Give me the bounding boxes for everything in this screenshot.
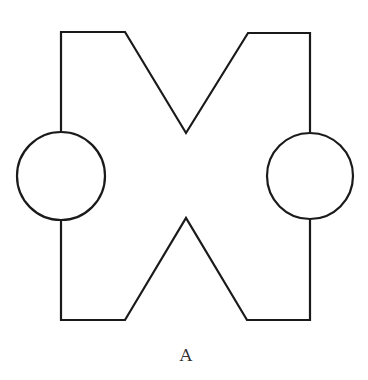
upper-wire [61,32,310,133]
lower-wire [61,218,310,320]
circuit-diagram [0,0,368,380]
left-circle [17,132,105,220]
figure-label: A [0,345,368,365]
right-circle [267,133,353,219]
